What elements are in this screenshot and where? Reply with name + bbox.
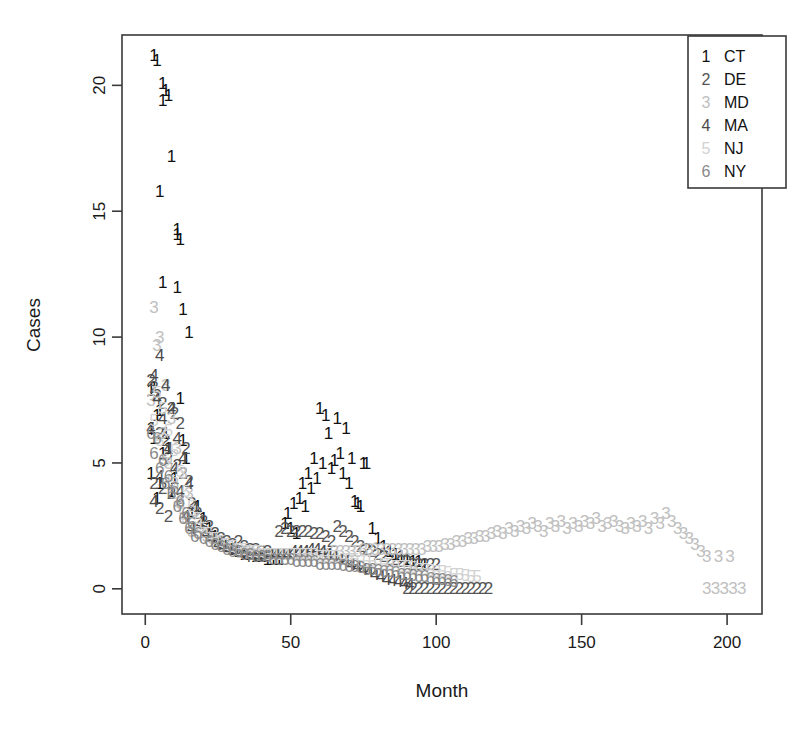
data-point: 5 [175, 462, 184, 481]
data-point: 3 [714, 547, 723, 566]
data-point: 1 [155, 182, 164, 201]
data-point: 1 [321, 406, 330, 425]
data-point: 1 [167, 147, 176, 166]
data-point: 1 [347, 449, 356, 468]
legend[interactable]: 1CT2DE3MD4MA5NJ6NY [688, 36, 786, 188]
y-tick-label: 10 [91, 328, 110, 347]
data-point: 1 [158, 91, 167, 110]
data-point: 1 [175, 230, 184, 249]
y-tick-label: 15 [91, 202, 110, 221]
y-tick-label: 0 [91, 584, 110, 593]
data-point: 1 [301, 497, 310, 516]
legend-key-DE: 2 [702, 71, 711, 88]
x-axis-title: Month [416, 680, 469, 701]
legend-label-NJ: NJ [724, 140, 744, 157]
data-point: 4 [167, 399, 176, 418]
data-point: 4 [155, 346, 164, 365]
data-point: 1 [362, 454, 371, 473]
data-point: 4 [161, 376, 170, 395]
legend-label-MD: MD [724, 94, 749, 111]
data-point: 5 [158, 399, 167, 418]
legend-label-NY: NY [724, 163, 747, 180]
legend-label-CT: CT [724, 48, 746, 65]
x-tick-label: 150 [567, 633, 595, 652]
data-point: 4 [149, 492, 158, 511]
data-point: 3 [725, 547, 734, 566]
data-point: 5 [164, 421, 173, 440]
y-tick-label: 5 [91, 458, 110, 467]
data-point: 1 [152, 51, 161, 70]
data-point: 1 [178, 300, 187, 319]
data-point: 6 [449, 572, 458, 591]
data-point: 1 [335, 444, 344, 463]
data-point: 1 [184, 323, 193, 342]
data-point: 2 [484, 579, 493, 598]
data-point: 1 [344, 474, 353, 493]
data-point: 4 [149, 366, 158, 385]
data-point: 1 [173, 278, 182, 297]
legend-label-DE: DE [724, 71, 746, 88]
data-point: 3 [149, 298, 158, 317]
y-tick-label: 20 [91, 76, 110, 95]
legend-key-MA: 4 [702, 117, 711, 134]
data-point: 5 [170, 441, 179, 460]
legend-key-CT: 1 [702, 48, 711, 65]
data-point: 1 [341, 419, 350, 438]
scatter-plot-figure: 1111111111111111111111111111111111111111… [0, 0, 790, 732]
y-axis-title: Cases [23, 298, 44, 352]
x-tick-label: 50 [281, 633, 300, 652]
data-point: 5 [472, 567, 481, 586]
figure-background [0, 0, 790, 732]
x-tick-label: 100 [422, 633, 450, 652]
chart-canvas: 1111111111111111111111111111111111111111… [0, 0, 790, 732]
legend-label-MA: MA [724, 117, 748, 134]
legend-key-MD: 3 [702, 94, 711, 111]
data-point: 3 [737, 579, 746, 598]
data-point: 1 [356, 497, 365, 516]
x-tick-label: 200 [713, 633, 741, 652]
data-point: 3 [702, 547, 711, 566]
x-tick-label: 0 [141, 633, 150, 652]
data-point: 1 [158, 273, 167, 292]
legend-key-NY: 6 [702, 163, 711, 180]
legend-key-NJ: 5 [702, 140, 711, 157]
